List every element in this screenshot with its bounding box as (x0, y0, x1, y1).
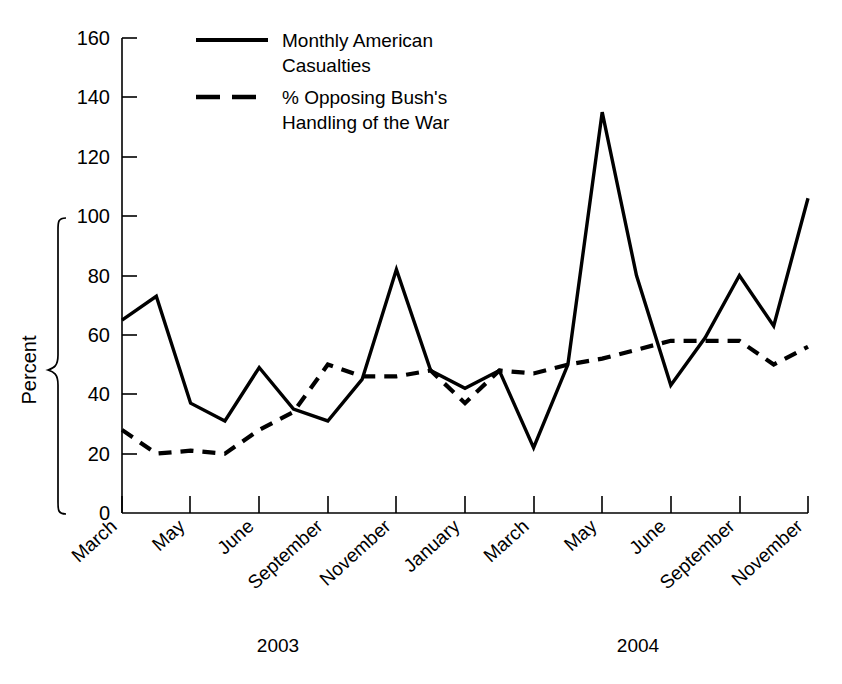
x-tick-label: March (67, 515, 120, 566)
x-tick-label: January (399, 515, 464, 576)
legend-label-opposition-line2: Handling of the War (282, 112, 450, 133)
x-tick-label: June (625, 515, 670, 558)
x-axis-tick-labels: March May June September November Januar… (67, 515, 807, 593)
series-line-casualties (122, 112, 808, 447)
legend-label-casualties-line2: Casualties (282, 55, 371, 76)
x-tick-label: March (479, 515, 532, 566)
x-tick-label: June (213, 515, 258, 558)
y-tick-label: 60 (88, 324, 110, 346)
y-tick-label: 40 (88, 383, 110, 405)
x-tick-label: November (727, 515, 807, 590)
x-tick-label: September (656, 515, 740, 593)
legend-label-opposition-line1: % Opposing Bush's (282, 87, 447, 108)
y-tick-label: 80 (88, 265, 110, 287)
y-tick-label: 20 (88, 443, 110, 465)
period-label-2004: 2004 (617, 635, 660, 656)
x-tick-label: November (315, 515, 395, 590)
y-tick-label: 120 (77, 146, 110, 168)
line-chart: 160 140 120 100 80 60 40 20 0 Percent (0, 0, 842, 684)
y-axis-brace (48, 218, 66, 514)
y-axis-ticks (122, 38, 137, 454)
x-axis-ticks (122, 496, 808, 513)
x-tick-label: September (244, 515, 328, 593)
series-line-opposition (122, 341, 808, 454)
x-tick-label: May (148, 515, 189, 555)
legend: Monthly American Casualties % Opposing B… (196, 30, 450, 133)
y-tick-label: 100 (77, 205, 110, 227)
legend-label-casualties-line1: Monthly American (282, 30, 433, 51)
y-tick-label: 160 (77, 27, 110, 49)
period-labels: 2003 2004 (257, 635, 660, 656)
x-tick-label: May (560, 515, 601, 555)
y-axis-tick-labels: 160 140 120 100 80 60 40 20 0 (77, 27, 110, 524)
y-axis-title: Percent (18, 335, 40, 404)
chart-canvas: 160 140 120 100 80 60 40 20 0 Percent (0, 0, 842, 684)
period-label-2003: 2003 (257, 635, 299, 656)
y-tick-label: 140 (77, 86, 110, 108)
